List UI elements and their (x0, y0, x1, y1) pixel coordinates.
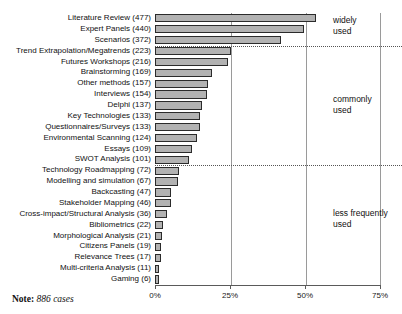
bar-row-label: Delphi (137) (0, 100, 151, 110)
bar-row-label: Cross-impact/Structural Analysis (36) (0, 209, 151, 219)
x-axis-tick-label: 25% (222, 291, 238, 300)
bar-row-label: Backcasting (47) (0, 187, 151, 197)
x-axis-tick (380, 285, 381, 289)
bar-row-label: Stakeholder Mapping (46) (0, 198, 151, 208)
bar-row-label: Bibliometrics (22) (0, 220, 151, 230)
band-separator (155, 165, 402, 166)
bar (155, 90, 207, 98)
bar (155, 199, 171, 207)
bar (155, 167, 179, 175)
bar (155, 210, 167, 218)
x-axis-tick (305, 285, 306, 289)
note-text: 886 cases (37, 294, 74, 304)
band-label-less-frequently-used: less frequently used (333, 208, 388, 229)
bar-row-label: Other methods (157) (0, 78, 151, 88)
bar-row-label: Morphological Analysis (21) (0, 231, 151, 241)
x-axis-tick-label: 75% (372, 291, 388, 300)
bar (155, 14, 316, 22)
bar-row-label: Gaming (6) (0, 274, 151, 284)
band-label-less-frequently-used-line1: less frequently (333, 208, 388, 219)
bar-row-label: Citizens Panels (19) (0, 241, 151, 251)
bar (155, 145, 192, 153)
bar-row-label: Technology Roadmapping (72) (0, 165, 151, 175)
bar (155, 101, 202, 109)
bar (155, 58, 228, 66)
note: Note: 886 cases (12, 294, 74, 304)
bar (155, 123, 200, 131)
bar-row-label: Trend Extrapolation/Megatrends (223) (0, 46, 151, 56)
bar-row-label: Relevance Trees (17) (0, 252, 151, 262)
bar (155, 265, 159, 273)
bar-row-label: Essays (109) (0, 144, 151, 154)
x-axis-tick (155, 285, 156, 289)
bar-chart: Literature Review (477)Expert Panels (44… (0, 0, 402, 314)
band-label-widely-used-line1: widely (333, 15, 357, 26)
band-label-widely-used: widely used (333, 15, 357, 36)
note-prefix: Note: (12, 294, 34, 304)
bar (155, 47, 231, 55)
bar-row-label: Multi-criteria Analysis (11) (0, 263, 151, 273)
bar (155, 134, 197, 142)
bar (155, 243, 161, 251)
band-label-commonly-used-line2: used (333, 105, 372, 116)
bar (155, 69, 212, 77)
bar-row-label: Futures Workshops (216) (0, 57, 151, 67)
bar-row-label: Literature Review (477) (0, 13, 151, 23)
bar-row-label: Questionnaires/Surveys (133) (0, 122, 151, 132)
x-axis-line (155, 285, 381, 286)
bar (155, 275, 159, 283)
bar (155, 80, 208, 88)
bar (155, 232, 162, 240)
band-label-commonly-used-line1: commonly (333, 94, 372, 105)
bar (155, 25, 304, 33)
x-axis-tick-label: 0% (149, 291, 161, 300)
bar (155, 254, 161, 262)
bar (155, 221, 163, 229)
bar-row-label: Expert Panels (440) (0, 24, 151, 34)
bar-row-label: Brainstorming (169) (0, 67, 151, 77)
x-axis-tick-label: 50% (297, 291, 313, 300)
band-separator (155, 46, 402, 47)
band-label-widely-used-line2: used (333, 26, 357, 37)
bar-row-label: SWOT Analysis (101) (0, 154, 151, 164)
bar (155, 156, 189, 164)
band-label-less-frequently-used-line2: used (333, 219, 388, 230)
bar (155, 188, 171, 196)
bar-row-label: Interviews (154) (0, 89, 151, 99)
bar-row-label: Scenarios (372) (0, 35, 151, 45)
bar-row-label: Environmental Scanning (124) (0, 133, 151, 143)
bar-row-label: Key Technologies (133) (0, 111, 151, 121)
bar (155, 36, 281, 44)
x-axis-tick (230, 285, 231, 289)
bar (155, 112, 200, 120)
band-label-commonly-used: commonly used (333, 94, 372, 115)
bar-row-label: Modelling and simulation (67) (0, 176, 151, 186)
bar (155, 177, 178, 185)
